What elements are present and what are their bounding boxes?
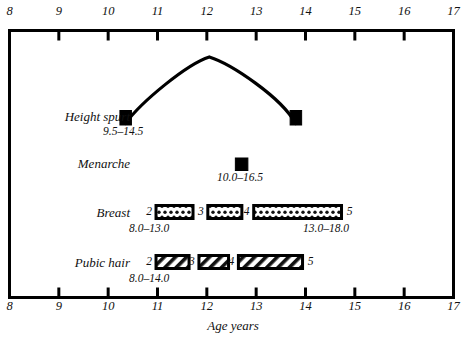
range-caption-breast-left: 8.0–13.0: [129, 222, 169, 234]
axis-tick-label-14: 14: [291, 300, 321, 313]
axis-tick-label-11: 11: [143, 300, 173, 313]
axis-tick-label-17: 17: [439, 300, 466, 313]
axis-tick-label-8: 8: [0, 300, 25, 313]
axis-tick-label-8: 8: [0, 5, 25, 18]
axis-tick-label-14: 14: [291, 5, 321, 18]
menarche-marker: [235, 158, 248, 171]
axis-top: [8, 31, 455, 41]
axis-tick-label-11: 11: [143, 5, 173, 18]
axis-tick-label-15: 15: [340, 5, 370, 18]
axis-tick-label-13: 13: [241, 5, 271, 18]
row-label-height-spurt: Height spurt: [0, 110, 130, 124]
range-caption-pubic-hair-left: 8.0–14.0: [129, 272, 169, 284]
axis-tick-label-13: 13: [241, 300, 271, 313]
axis-tick-label-9: 9: [44, 5, 74, 18]
stage-number: 3: [193, 205, 209, 217]
axis-tick-label-12: 12: [192, 300, 222, 313]
stage-number: 2: [141, 205, 157, 217]
stage-number: 2: [141, 255, 157, 267]
axis-bottom: [8, 288, 455, 298]
stage-number: 5: [303, 255, 319, 267]
axis-tick-label-16: 16: [389, 5, 419, 18]
axis-tick-label-9: 9: [44, 300, 74, 313]
axis-tick-label-10: 10: [93, 300, 123, 313]
row-label-menarche: Menarche: [0, 157, 130, 171]
stage-number: 4: [223, 255, 239, 267]
range-caption-menarche: 10.0–16.5: [217, 171, 263, 183]
axis-caption: Age years: [0, 318, 466, 334]
row-label-breast: Breast: [0, 206, 130, 220]
axis-tick-label-10: 10: [93, 5, 123, 18]
height-spurt-curve: [120, 57, 302, 125]
stage-number: 5: [342, 205, 358, 217]
axis-tick-label-15: 15: [340, 300, 370, 313]
row-label-pubic-hair: Pubic hair: [0, 256, 130, 270]
range-caption-height-spurt: 9.5–14.5: [103, 125, 143, 137]
axis-tick-label-17: 17: [439, 5, 466, 18]
stage-number: 3: [184, 255, 200, 267]
stage-number: 4: [239, 205, 255, 217]
axis-tick-label-16: 16: [389, 300, 419, 313]
range-caption-breast-right: 13.0–18.0: [303, 222, 349, 234]
axis-tick-label-12: 12: [192, 5, 222, 18]
puberty-timeline-chart: 891011121314151617 891011121314151617 He…: [0, 0, 466, 342]
